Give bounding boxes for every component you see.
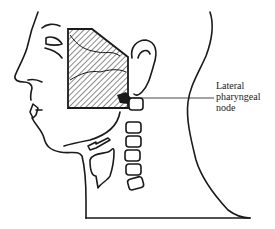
eyebrow xyxy=(42,24,60,28)
vertebra xyxy=(127,176,144,191)
label-lateral: Lateral xyxy=(216,80,244,91)
vertebra xyxy=(129,98,143,110)
chin-neck-front xyxy=(32,118,86,218)
vertebra xyxy=(126,122,141,133)
vertebra xyxy=(125,150,140,161)
head-neck-diagram xyxy=(0,0,275,229)
eye xyxy=(46,37,62,45)
ear xyxy=(132,40,156,95)
vertebra xyxy=(126,136,141,147)
vertebra xyxy=(126,164,141,175)
larynx xyxy=(90,149,114,188)
lips xyxy=(30,104,38,118)
neck-back xyxy=(187,12,250,218)
face-profile xyxy=(15,12,38,100)
label-pharyngeal: pharyngeal xyxy=(216,91,260,102)
label-node: node xyxy=(216,102,235,113)
